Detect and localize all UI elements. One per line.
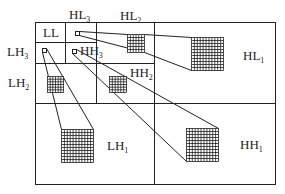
label-hl1: HL1 <box>243 49 264 65</box>
label-ll: LL <box>43 26 59 39</box>
label-hh1: HH1 <box>240 138 263 154</box>
lh1-coefficient-grid <box>62 130 94 163</box>
hl2-coefficient-grid <box>128 35 145 53</box>
lh2-coefficient-grid <box>48 77 64 93</box>
hh3-source-square <box>73 50 77 54</box>
label-hl3: HL3 <box>69 8 90 24</box>
lh3-source-square <box>43 49 47 53</box>
label-hh2: HH2 <box>130 66 153 82</box>
label-lh2: LH2 <box>8 76 29 92</box>
label-lh3: LH3 <box>7 45 28 61</box>
hh2-coefficient-grid <box>110 77 127 93</box>
label-lh1: LH1 <box>107 139 128 155</box>
hh1-coefficient-grid <box>187 129 219 162</box>
label-hl2: HL2 <box>120 9 141 25</box>
hl1-coefficient-grid <box>192 38 224 71</box>
hl3-source-square <box>76 32 80 36</box>
label-hh3: HH3 <box>80 44 103 60</box>
